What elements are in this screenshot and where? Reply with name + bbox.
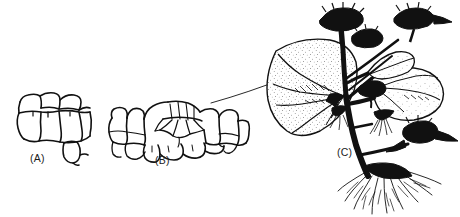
panel-label-c: (C) [337,146,352,158]
panel-label-b: (B) [155,154,170,166]
panel-label-a: (A) [30,152,45,164]
botanical-figure: (A) (B) (C) [0,0,460,217]
figure-canvas [0,0,460,217]
